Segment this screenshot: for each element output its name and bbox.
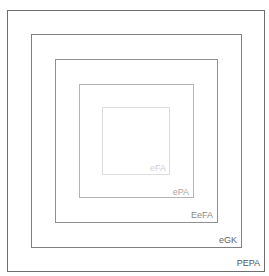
label-epa: ePA (173, 187, 189, 197)
label-eefa: EeFA (191, 210, 213, 220)
label-egk: eGK (219, 235, 237, 245)
label-efa: eFA (150, 163, 166, 173)
label-pepa: PEPA (237, 258, 260, 268)
